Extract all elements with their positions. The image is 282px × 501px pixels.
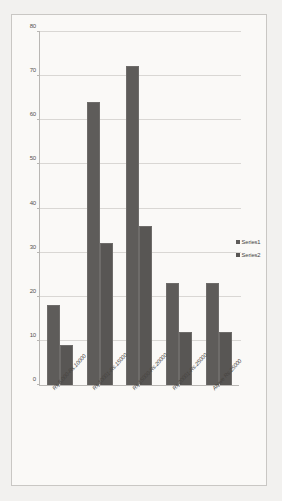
y-axis-tick-label: 0 [33,376,40,382]
y-axis-tick-label: 30 [30,244,40,250]
x-axis-tick-mark [59,384,60,387]
bar-groups [40,32,239,385]
bar-group [166,32,192,385]
bar-series1-3 [166,283,179,385]
x-axis-tick-mark [99,384,100,387]
bar-series1-4 [206,283,219,385]
legend-swatch-icon [236,253,240,257]
legend-label: Series2 [242,252,261,258]
bar-series1-1 [87,102,100,385]
bar-group [87,32,113,385]
chart-frame: 01020304050607080 Rs.5,000-Rs.10000Rs.10… [11,14,267,486]
x-axis-labels: Rs.5,000-Rs.10000Rs.10001-Rs.15000Rs.150… [39,387,239,482]
y-axis-tick-label: 70 [30,67,40,73]
bar-series2-2 [139,226,152,385]
plot-area: 01020304050607080 [39,32,239,386]
bar-group [126,32,152,385]
y-axis-tick-label: 20 [30,288,40,294]
legend-item-series2[interactable]: Series2 [236,252,260,258]
x-axis-tick-mark [219,384,220,387]
bar-series1-0 [47,305,60,385]
y-axis-tick-label: 40 [30,200,40,206]
y-axis-tick-label: 80 [30,23,40,29]
bar-series2-1 [100,243,113,385]
y-axis-tick-label: 60 [30,111,40,117]
chart-legend: Series1Series2 [236,239,260,265]
y-axis-tick-label: 50 [30,155,40,161]
legend-label: Series1 [242,239,261,245]
x-axis-tick-mark [179,384,180,387]
legend-item-series1[interactable]: Series1 [236,239,260,245]
y-axis-tick-label: 10 [30,332,40,338]
bar-group [47,32,73,385]
bar-group [206,32,232,385]
legend-swatch-icon [236,240,240,244]
x-axis-tick-mark [139,384,140,387]
bar-series1-2 [126,66,139,385]
